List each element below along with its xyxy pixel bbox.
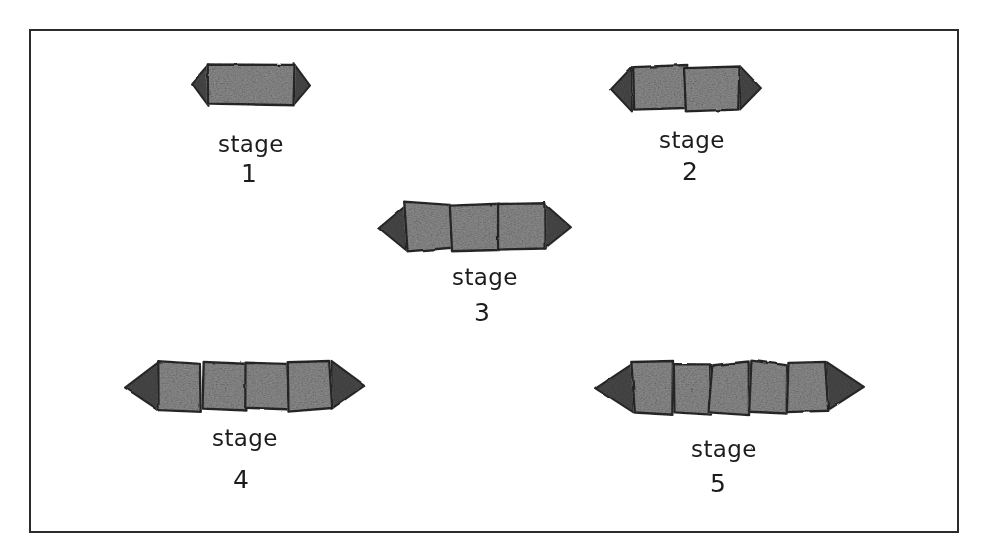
stage-1-number: 1 <box>241 159 257 188</box>
larva-body-segment <box>708 362 749 416</box>
larva-1 <box>192 63 310 106</box>
stage-5-label: stage <box>691 436 757 462</box>
stage-1-label: stage <box>218 131 284 157</box>
larva-body-segment <box>202 362 246 411</box>
stage-3-number: 3 <box>474 298 490 327</box>
larva-body-segment <box>288 361 333 412</box>
larva-5 <box>596 361 864 415</box>
stage-label-group-5: stage 5 <box>691 436 757 498</box>
larva-3 <box>379 202 571 252</box>
stage-5-number: 5 <box>710 469 726 498</box>
larva-body-segment <box>404 202 452 252</box>
stage-2-number: 2 <box>682 157 698 186</box>
labels-layer: stage 1 stage 2 stage 3 stage 4 stage 5 <box>212 127 757 498</box>
larva-head-tip <box>125 362 159 410</box>
larva-body-segment <box>450 204 500 252</box>
stage-label-group-4: stage 4 <box>212 425 278 494</box>
larva-body-segment <box>631 361 673 415</box>
larva-head-tip <box>379 206 406 250</box>
larva-head-tip <box>611 67 632 112</box>
stage-label-group-1: stage 1 <box>218 131 284 188</box>
larva-body-segment <box>787 362 828 412</box>
larva-4 <box>125 361 365 412</box>
pencil-drawing-sheet: stage 1 stage 2 stage 3 stage 4 stage 5 <box>0 0 985 557</box>
larva-tail-tip <box>544 204 571 249</box>
stage-4-number: 4 <box>233 465 249 494</box>
stage-3-label: stage <box>452 264 518 290</box>
larva-body-segment <box>674 364 711 414</box>
stage-2-label: stage <box>659 127 725 153</box>
larva-body-segment <box>749 361 787 414</box>
larva-tail-tip <box>293 63 310 105</box>
larva-tail-tip <box>331 361 365 409</box>
larva-tail-tip <box>740 66 761 109</box>
larva-body-segment <box>498 203 546 249</box>
larva-body-segment <box>633 65 687 110</box>
stage-label-group-3: stage 3 <box>452 264 518 327</box>
larva-2 <box>611 65 761 112</box>
larva-body-segment <box>158 361 201 412</box>
stage-label-group-2: stage 2 <box>659 127 725 186</box>
larva-head-tip <box>596 363 634 412</box>
diagram-canvas: stage 1 stage 2 stage 3 stage 4 stage 5 <box>0 0 985 557</box>
larva-body-segment <box>684 66 740 111</box>
larva-tail-tip <box>826 362 864 411</box>
larva-head-tip <box>192 64 209 106</box>
stage-4-label: stage <box>212 425 278 451</box>
larvae-layer <box>125 63 864 415</box>
larva-body-segment <box>245 363 290 410</box>
larva-body-segment <box>208 64 295 105</box>
